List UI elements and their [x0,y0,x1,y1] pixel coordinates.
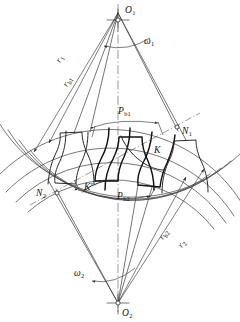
label-rb2-group: rb2 [157,228,171,242]
tooth-lower-right [162,140,208,193]
gear2-root-arc [28,180,214,229]
omega2-arc [92,268,135,282]
gear-diagram-svg: O1 O2 ω1 ω2 r1 rb1 rb2 r2 [0,0,240,322]
gear1-radius-ray-mid-left [74,13,118,133]
label-omega1: ω1 [144,36,154,47]
label-omega2: ω2 [74,268,84,279]
gear-meshing-figure: O1 O2 ω1 ω2 r1 rb1 rb2 r2 [0,0,240,322]
label-n1: N1 [181,126,192,137]
label-r1-group: r1 [54,54,66,65]
gear1-radius-ray-mid-left2 [90,13,118,132]
label-o1: O1 [125,5,135,16]
label-n2: N2 [35,188,46,199]
label-r2-group: r2 [176,239,188,250]
pb1-dimension-arc [94,121,158,127]
label-pb1: Pb1 [117,106,131,117]
tooth-upper-center [95,128,130,181]
pb1-extension-right [158,122,163,135]
label-pb2: Pb2 [116,191,130,202]
label-rb2: rb2 [157,228,171,242]
gear1-radius-ray-left-outer [34,13,118,152]
pb1-extension-left [92,126,95,137]
label-rb1-group: rb1 [61,75,75,89]
label-rb1: rb1 [61,75,75,89]
label-r1: r1 [54,54,66,65]
label-r2: r2 [176,239,188,250]
point-n2-marker [55,191,59,195]
label-o2: O2 [122,308,132,319]
label-k-prime: K′ [83,182,93,192]
teeth-group [48,128,208,193]
label-k: K [153,145,161,155]
point-n1-marker [175,125,179,129]
gear2-radius-ray-left [56,189,118,303]
upper-gear-group [0,4,240,312]
gear1-addendum-arc [0,114,240,197]
